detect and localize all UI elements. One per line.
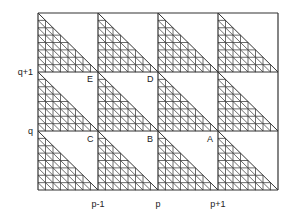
point-label-b: B — [147, 134, 153, 144]
point-label-c: C — [87, 134, 94, 144]
triangulated-grid-diagram — [0, 0, 293, 217]
point-label-d: D — [147, 74, 154, 84]
y-axis-label-q-plus-1: q+1 — [3, 67, 33, 77]
x-axis-label-p-plus-1: p+1 — [203, 199, 233, 209]
y-axis-label-q: q — [3, 126, 33, 136]
x-axis-label-p-minus-1: p-1 — [83, 199, 113, 209]
x-axis-label-p: p — [143, 199, 173, 209]
point-label-e: E — [87, 74, 93, 84]
point-label-a: A — [207, 134, 213, 144]
